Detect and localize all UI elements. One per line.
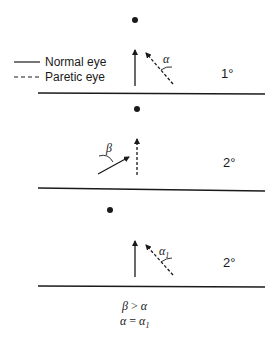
panel-divider	[38, 286, 265, 287]
relation-beta-greater-alpha: β>α	[121, 299, 148, 313]
legend: Normal eye Paretic eye	[14, 55, 107, 84]
panel-2: β 2°	[38, 106, 265, 191]
relations: β>α α=α1	[120, 299, 149, 330]
fixation-target-dot	[132, 17, 138, 23]
angle-arc-icon	[161, 67, 172, 70]
gaze-position-label: 2°	[223, 255, 235, 270]
gaze-position-label: 2°	[223, 155, 235, 170]
strabismus-deviation-diagram: Normal eye Paretic eye α 1° β 2° α1 2° β…	[0, 0, 280, 338]
angle-label: α	[163, 52, 170, 66]
legend-normal-label: Normal eye	[45, 55, 107, 69]
panel-divider	[38, 188, 265, 191]
panel-3: α1 2°	[38, 207, 265, 287]
angle-label: β	[105, 141, 112, 155]
angle-arc-icon	[99, 155, 113, 162]
gaze-position-label: 1°	[221, 66, 233, 81]
fixation-target-dot	[134, 106, 140, 112]
panel-divider	[38, 93, 265, 94]
relation-alpha-equals-alpha1: α=α1	[120, 314, 149, 330]
normal-eye-arrow-icon	[98, 157, 129, 174]
fixation-target-dot	[107, 207, 113, 213]
legend-paretic-label: Paretic eye	[45, 70, 105, 84]
angle-label: α1	[159, 244, 169, 260]
